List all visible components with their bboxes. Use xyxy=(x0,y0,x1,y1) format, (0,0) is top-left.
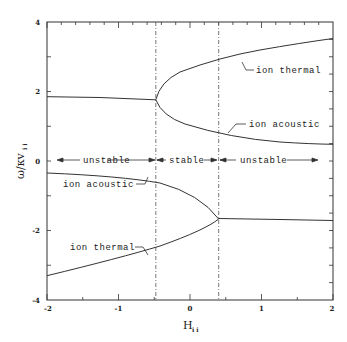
svg-text:0: 0 xyxy=(188,304,193,313)
svg-text:2: 2 xyxy=(35,87,40,96)
dispersion-chart: 4 2 0 -2 -4 -2 -1 0 1 2 H i i ω/κv i i xyxy=(0,0,347,342)
svg-text:2: 2 xyxy=(330,304,335,313)
label-ion-acoustic-upper: ion acoustic xyxy=(249,120,320,130)
svg-text:-2: -2 xyxy=(32,226,40,235)
svg-text:0: 0 xyxy=(35,157,40,166)
lower-coalesced-curve xyxy=(219,219,333,221)
svg-text:i i: i i xyxy=(21,143,28,150)
region-label-stable: stable xyxy=(169,156,204,166)
region-label-unstable-right: unstable xyxy=(240,156,287,166)
y-axis-title: ω/κv i i xyxy=(14,143,28,179)
label-ion-acoustic-lower: ion acoustic xyxy=(63,180,134,190)
y-tick-labels: 4 2 0 -2 -4 xyxy=(32,18,40,305)
upper-coalesced-curve xyxy=(47,97,156,100)
svg-text:-1: -1 xyxy=(115,304,123,313)
svg-text:1: 1 xyxy=(259,304,264,313)
region-label-unstable-left: unstable xyxy=(83,156,130,166)
x-tick-labels: -2 -1 0 1 2 xyxy=(44,304,334,313)
label-ion-thermal-lower: ion thermal xyxy=(70,243,135,253)
x-axis-title: H i i xyxy=(183,319,199,333)
svg-text:4: 4 xyxy=(35,18,40,27)
svg-text:-4: -4 xyxy=(32,296,40,305)
svg-text:-2: -2 xyxy=(44,304,52,313)
svg-text:ω/κv: ω/κv xyxy=(14,152,27,179)
label-ion-thermal-upper: ion thermal xyxy=(256,66,321,76)
svg-text:i i: i i xyxy=(192,326,199,333)
